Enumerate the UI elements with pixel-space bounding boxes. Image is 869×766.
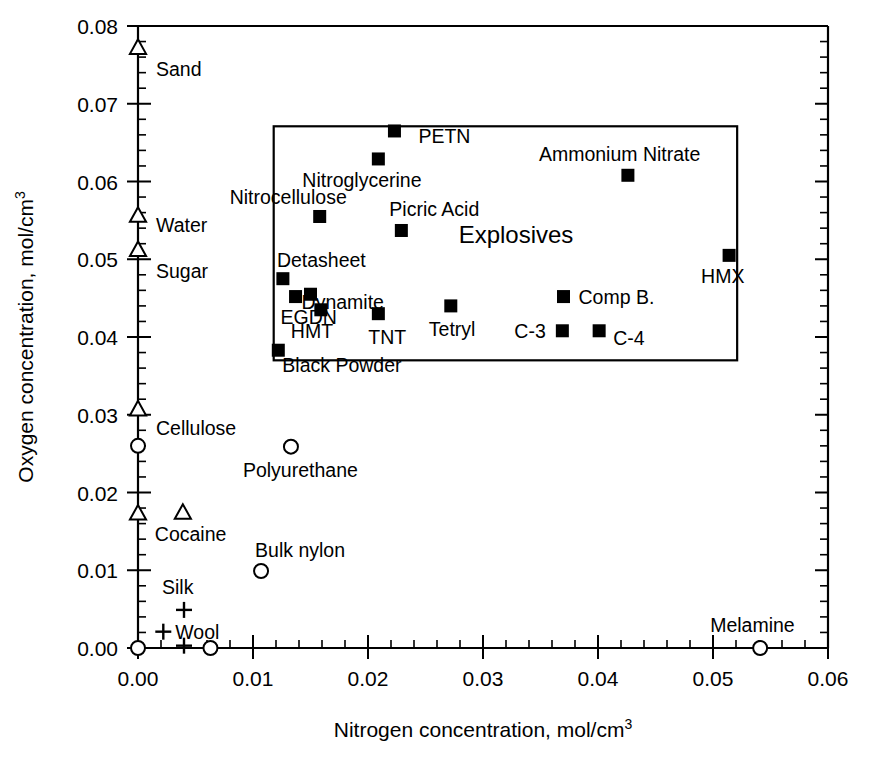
point-label: Cocaine <box>155 523 227 545</box>
marker-filled-square[interactable] <box>593 324 606 337</box>
data-point: Dynamite <box>289 290 384 313</box>
data-point: Nitroglycerine <box>302 152 421 191</box>
marker-open-circle[interactable] <box>284 440 298 454</box>
data-point: Detasheet <box>276 249 366 286</box>
y-tick-label: 0.08 <box>77 15 118 38</box>
marker-open-triangle[interactable] <box>130 401 146 416</box>
series-plus: SilkWool <box>155 576 219 654</box>
point-label: Nitrocellulose <box>230 186 347 208</box>
point-label: Picric Acid <box>389 198 479 220</box>
point-label: Wool <box>175 621 219 643</box>
marker-filled-square[interactable] <box>313 210 326 223</box>
marker-open-circle[interactable] <box>203 641 217 655</box>
x-tick-label: 0.04 <box>578 667 619 690</box>
data-point: Wool <box>155 621 219 643</box>
x-tick-label: 0.00 <box>118 667 159 690</box>
marker-open-circle[interactable] <box>753 641 767 655</box>
data-point: PETN <box>388 124 471 146</box>
explosives-group-label: Explosives <box>459 221 574 248</box>
y-tick-label: 0.04 <box>77 326 118 349</box>
data-point: Ammonium Nitrate <box>539 143 700 182</box>
marker-open-circle[interactable] <box>131 641 145 655</box>
point-label: Cellulose <box>156 417 236 439</box>
y-axis-ticks <box>127 26 828 648</box>
data-point: Tetryl <box>429 299 476 340</box>
x-tick-label: 0.02 <box>348 667 389 690</box>
series-circles: PolyurethaneBulk nylonMelamine <box>131 439 795 655</box>
point-label: Tetryl <box>429 318 476 340</box>
data-point <box>131 439 145 453</box>
data-point: C-3 <box>514 320 569 342</box>
data-point: Comp B. <box>557 286 654 308</box>
point-label: Sand <box>156 58 202 80</box>
data-point: C-4 <box>593 324 645 349</box>
point-label: Detasheet <box>277 249 366 271</box>
point-label: PETN <box>418 125 470 147</box>
marker-filled-square[interactable] <box>372 152 385 165</box>
marker-filled-square[interactable] <box>557 290 570 303</box>
point-label: HMX <box>701 265 744 287</box>
marker-filled-square[interactable] <box>444 299 457 312</box>
y-tick-label: 0.07 <box>77 93 118 116</box>
point-label: HMT <box>291 320 333 342</box>
y-axis-title: Oxygen concentration, mol/cm3 <box>12 191 37 483</box>
point-label: TNT <box>368 326 406 348</box>
marker-filled-square[interactable] <box>723 249 736 262</box>
point-label: Dynamite <box>302 291 384 313</box>
y-tick-label: 0.02 <box>77 482 118 505</box>
point-label: Black Powder <box>282 354 402 376</box>
marker-filled-square[interactable] <box>395 224 408 237</box>
point-label: C-4 <box>613 327 645 349</box>
data-point: Sugar <box>130 241 209 282</box>
marker-filled-square[interactable] <box>372 307 385 320</box>
point-label: Water <box>156 214 208 236</box>
marker-open-triangle[interactable] <box>130 207 146 222</box>
x-axis-tick-labels: 0.000.010.020.030.040.050.06 <box>118 667 849 690</box>
marker-filled-square[interactable] <box>314 303 327 316</box>
data-point: Black Powder <box>272 344 402 377</box>
marker-filled-square[interactable] <box>289 290 302 303</box>
marker-open-circle[interactable] <box>254 564 268 578</box>
data-point: Water <box>130 207 208 236</box>
x-tick-label: 0.06 <box>808 667 849 690</box>
point-label: Bulk nylon <box>255 539 345 561</box>
data-point: Silk <box>162 576 194 618</box>
data-point: Polyurethane <box>243 440 358 481</box>
marker-open-circle[interactable] <box>131 439 145 453</box>
data-points-layer: PETNNitroglycerineAmmonium NitrateNitroc… <box>130 39 795 655</box>
y-tick-label: 0.03 <box>77 404 118 427</box>
y-axis-tick-labels: 0.000.010.020.030.040.050.060.070.08 <box>77 15 118 660</box>
point-label: Sugar <box>156 260 209 282</box>
data-point: Nitrocellulose <box>230 186 347 223</box>
x-axis-title: Nitrogen concentration, mol/cm3 <box>334 716 633 741</box>
x-tick-label: 0.05 <box>693 667 734 690</box>
x-tick-label: 0.03 <box>463 667 504 690</box>
data-point: Cocaine <box>155 504 227 545</box>
data-point: Bulk nylon <box>254 539 345 578</box>
data-point: TNT <box>368 307 406 348</box>
y-tick-label: 0.05 <box>77 248 118 271</box>
marker-filled-square[interactable] <box>621 169 634 182</box>
data-point: Sand <box>130 39 202 79</box>
point-label: Silk <box>162 576 194 598</box>
series-triangles: SandWaterSugarCelluloseCocaine <box>130 39 236 544</box>
data-point: Cellulose <box>130 401 236 440</box>
point-label: Ammonium Nitrate <box>539 143 700 165</box>
marker-filled-square[interactable] <box>388 124 401 137</box>
data-point <box>131 641 145 655</box>
y-tick-label: 0.01 <box>77 559 118 582</box>
chart-canvas: 0.000.010.020.030.040.050.06 0.000.010.0… <box>0 0 869 766</box>
y-tick-label: 0.00 <box>77 637 118 660</box>
marker-filled-square[interactable] <box>556 324 569 337</box>
marker-open-triangle[interactable] <box>130 505 146 520</box>
series-explosives: PETNNitroglycerineAmmonium NitrateNitroc… <box>230 124 745 376</box>
y-tick-label: 0.06 <box>77 171 118 194</box>
chart-axes <box>138 26 828 648</box>
point-label: Comp B. <box>579 286 655 308</box>
marker-open-triangle[interactable] <box>175 504 191 519</box>
scatter-chart-figure: 0.000.010.020.030.040.050.06 0.000.010.0… <box>0 0 869 766</box>
data-point <box>130 505 146 520</box>
data-point <box>203 641 217 655</box>
marker-filled-square[interactable] <box>276 272 289 285</box>
point-label: Melamine <box>710 614 795 636</box>
